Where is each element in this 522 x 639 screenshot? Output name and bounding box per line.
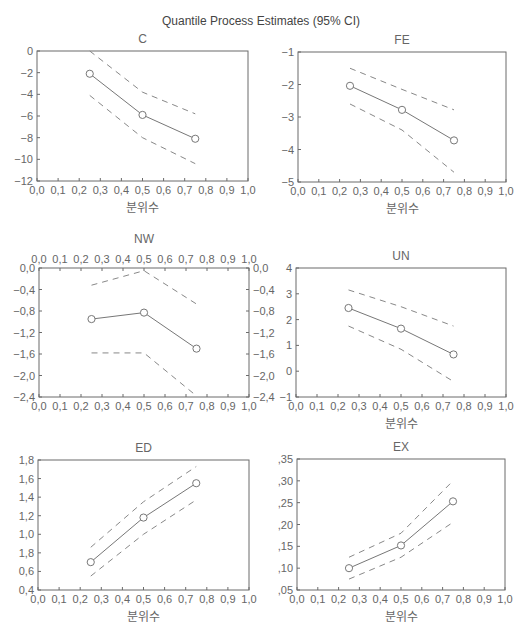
chart-ex: EX0,00,10,20,30,40,50,60,70,80,91,0,35,3… xyxy=(278,440,513,624)
x-tick-label: 0,2 xyxy=(73,593,88,605)
y-tick-label: 1,8 xyxy=(19,547,34,559)
y-tick-label: 1,0 xyxy=(19,528,34,540)
y-tick-label: ,20 xyxy=(278,519,293,531)
x-tick-label: 0,7 xyxy=(435,593,450,605)
x-tick-label: 0,4 xyxy=(373,593,388,605)
y-tick-label: −0,4 xyxy=(13,284,35,296)
ci-band-line xyxy=(91,467,197,548)
y-tick-label-right: −2,0 xyxy=(253,370,275,382)
x-tick-label: 0,4 xyxy=(372,400,387,412)
y-tick-label: 1 xyxy=(286,339,292,351)
ci-band-line xyxy=(91,500,197,576)
x-tick-label: 0,6 xyxy=(157,593,172,605)
x-tick-label: 0,8 xyxy=(456,400,471,412)
x-tick-label: 0,9 xyxy=(220,593,235,605)
estimate-marker xyxy=(345,304,352,311)
y-tick-label: −0,8 xyxy=(13,305,35,317)
estimate-marker xyxy=(140,514,147,521)
x-tick-label: 0,5 xyxy=(136,400,151,412)
x-tick-label-top: 0,7 xyxy=(178,253,193,265)
chart-c: C0,00,10,20,30,40,50,60,70,80,91,00−2−4−… xyxy=(14,32,255,215)
y-tick-label-right: −0,8 xyxy=(253,305,275,317)
y-tick-label: −4 xyxy=(20,88,33,100)
x-tick-label: 0,7 xyxy=(436,185,451,197)
estimate-marker xyxy=(87,559,94,566)
y-tick-label: −8 xyxy=(20,132,33,144)
y-tick-label: 0,0 xyxy=(20,262,35,274)
x-tick-label: 0,7 xyxy=(435,400,450,412)
y-tick-label: −4 xyxy=(281,144,294,156)
x-tick-label: 0,5 xyxy=(393,593,408,605)
x-tick-label: 0,3 xyxy=(351,400,366,412)
x-tick-label: 0,6 xyxy=(414,400,429,412)
y-tick-label: −10 xyxy=(14,153,33,165)
x-tick-label-top: 0,4 xyxy=(115,253,130,265)
chart-title: ED xyxy=(135,441,152,455)
estimate-line xyxy=(349,501,453,568)
y-tick-label: −12 xyxy=(14,175,33,187)
y-tick-label: −2,4 xyxy=(13,391,35,403)
x-tick-label: 1,0 xyxy=(241,593,256,605)
x-tick-label: 0,2 xyxy=(331,593,346,605)
x-tick-label: 0,8 xyxy=(199,593,214,605)
x-tick-label-top: 0,2 xyxy=(73,253,88,265)
x-tick-label: 0,8 xyxy=(199,400,214,412)
quantile-figure: C0,00,10,20,30,40,50,60,70,80,91,00−2−4−… xyxy=(0,0,522,639)
x-tick-label: 1,0 xyxy=(498,400,513,412)
x-tick-label: 0,4 xyxy=(115,400,130,412)
y-tick-label: ,30 xyxy=(278,475,293,487)
y-tick-label: −2 xyxy=(20,67,33,79)
x-tick-label: 0,2 xyxy=(73,400,88,412)
x-tick-label: 0,7 xyxy=(178,593,193,605)
ci-band-line xyxy=(90,95,196,163)
x-tick-label: 0,9 xyxy=(220,400,235,412)
ci-band-line xyxy=(90,51,196,114)
estimate-line xyxy=(92,313,197,349)
x-tick-label: 0,9 xyxy=(477,400,492,412)
x-axis-label: 분위수 xyxy=(126,201,159,215)
y-tick-label-right: −2,4 xyxy=(253,391,275,403)
x-tick-label: 0,3 xyxy=(94,400,109,412)
x-tick-label: 0,8 xyxy=(456,593,471,605)
x-tick-label: 0,3 xyxy=(94,593,109,605)
y-tick-label: −3 xyxy=(281,111,294,123)
y-tick-label: 1,8 xyxy=(19,454,34,466)
x-tick-label: 0,6 xyxy=(414,593,429,605)
y-tick-label-right: −0,4 xyxy=(253,284,275,296)
plot-frame xyxy=(39,268,249,397)
x-tick-label: 0,5 xyxy=(394,185,409,197)
x-tick-label-top: 0,5 xyxy=(136,253,151,265)
x-tick-label: 0,2 xyxy=(330,400,345,412)
estimate-line xyxy=(91,483,197,562)
estimate-marker xyxy=(345,565,352,572)
x-tick-label: 0,4 xyxy=(115,593,130,605)
ci-band-line xyxy=(92,353,197,396)
x-tick-label: 0,5 xyxy=(135,184,150,196)
x-tick-label: 0,2 xyxy=(332,185,347,197)
estimate-marker xyxy=(192,135,199,142)
y-tick-label: 1,4 xyxy=(19,491,34,503)
x-tick-label: 0,1 xyxy=(311,185,326,197)
y-tick-label: 0 xyxy=(27,45,33,57)
estimate-marker xyxy=(86,70,93,77)
y-tick-label: −2 xyxy=(281,79,294,91)
x-tick-label: 0,5 xyxy=(393,400,408,412)
x-tick-label-top: 0,3 xyxy=(94,253,109,265)
chart-title: C xyxy=(138,32,147,46)
estimate-marker xyxy=(88,315,95,322)
x-axis-label: 분위수 xyxy=(385,610,418,624)
plot-frame xyxy=(297,459,505,590)
estimate-marker xyxy=(140,309,147,316)
x-tick-label: 0,5 xyxy=(136,593,151,605)
x-tick-label: 0,3 xyxy=(353,185,368,197)
x-tick-label: 0,8 xyxy=(198,184,213,196)
estimate-marker xyxy=(346,82,353,89)
y-tick-label: ,35 xyxy=(278,453,293,465)
estimate-marker xyxy=(397,542,404,549)
chart-un: UN0,00,10,20,30,40,50,60,70,80,91,043210… xyxy=(279,249,513,431)
estimate-line xyxy=(90,74,196,139)
y-tick-label: −1 xyxy=(279,391,292,403)
chart-ed: ED0,00,10,20,30,40,50,60,70,80,91,01,81,… xyxy=(19,441,257,624)
y-tick-label: −1 xyxy=(281,46,294,58)
y-tick-label: 1,6 xyxy=(19,473,34,485)
